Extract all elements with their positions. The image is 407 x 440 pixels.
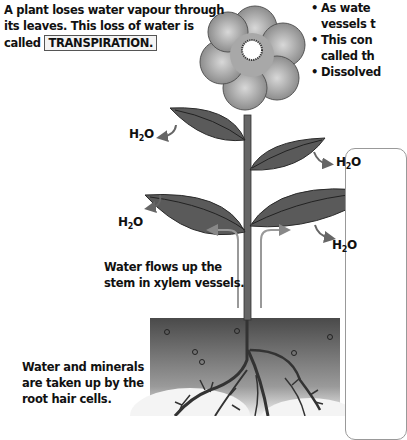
bullet-3-line-1: •Dissolved: [311, 64, 381, 80]
h2o-label-lower-left: H2O: [118, 215, 143, 231]
side-panel-frame: [345, 148, 407, 440]
stem-label: Water flows up the stem in xylem vessels…: [104, 259, 244, 291]
bullet-2-line-1: •This con: [311, 32, 381, 48]
h2o-label-upper-left: H2O: [129, 127, 154, 143]
stem: [244, 115, 251, 320]
intro-line-1: A plant loses water vapour through: [4, 2, 224, 18]
bullet-list: •As wate vessels t •This con called th •…: [311, 0, 381, 80]
transpiration-keyword: TRANSPIRATION.: [44, 35, 157, 51]
bullet-1-line-1: •As wate: [311, 0, 381, 16]
bullet-2-line-2: called th: [311, 48, 381, 64]
intro-text: A plant loses water vapour through its l…: [4, 2, 224, 51]
h2o-label-upper-right: H2O: [336, 155, 361, 171]
intro-prefix: called: [4, 36, 41, 50]
h2o-label-lower-right: H2O: [332, 238, 357, 254]
intro-line-3: called TRANSPIRATION.: [4, 35, 224, 51]
intro-line-2: its leaves. This loss of water is: [4, 18, 224, 34]
roots-label: Water and minerals are taken up by the r…: [22, 359, 144, 407]
bullet-1-line-2: vessels t: [311, 16, 381, 32]
